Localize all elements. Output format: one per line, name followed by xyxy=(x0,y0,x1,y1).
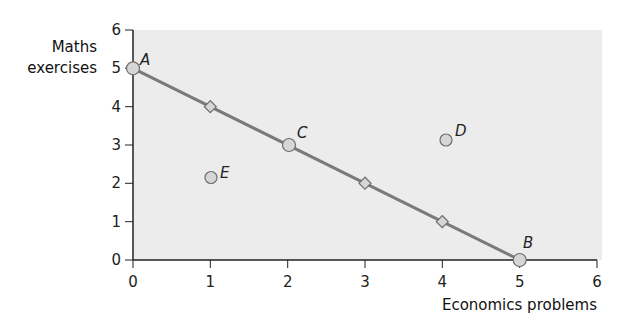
svg-text:5: 5 xyxy=(111,59,121,77)
svg-text:3: 3 xyxy=(360,273,370,291)
label-e: E xyxy=(220,164,230,182)
point-e xyxy=(205,172,217,184)
svg-text:6: 6 xyxy=(592,273,602,291)
ppf-chart: 0 1 2 3 4 5 6 0 1 2 3 4 5 6 Maths exerci… xyxy=(0,0,629,333)
point-a xyxy=(127,62,140,75)
label-b: B xyxy=(523,234,533,252)
y-tick-labels: 0 1 2 3 4 5 6 xyxy=(111,21,121,269)
svg-text:4: 4 xyxy=(111,98,121,116)
x-tick-labels: 0 1 2 3 4 5 6 xyxy=(128,273,602,291)
svg-text:1: 1 xyxy=(111,213,121,231)
svg-text:0: 0 xyxy=(128,273,138,291)
point-c xyxy=(283,139,296,152)
svg-text:6: 6 xyxy=(111,21,121,39)
point-d xyxy=(440,134,452,146)
svg-text:2: 2 xyxy=(111,174,121,192)
svg-text:3: 3 xyxy=(111,136,121,154)
svg-text:0: 0 xyxy=(111,251,121,269)
svg-text:5: 5 xyxy=(515,273,525,291)
svg-text:4: 4 xyxy=(438,273,448,291)
svg-text:2: 2 xyxy=(283,273,293,291)
y-axis-label-line2: exercises xyxy=(27,59,97,77)
plot-area xyxy=(133,30,602,260)
label-c: C xyxy=(297,124,308,142)
label-a: A xyxy=(139,51,150,69)
label-d: D xyxy=(455,122,467,140)
x-axis-label: Economics problems xyxy=(442,296,597,314)
point-b xyxy=(513,254,526,267)
svg-text:1: 1 xyxy=(206,273,216,291)
y-axis-label-line1: Maths xyxy=(52,38,98,56)
x-ticks xyxy=(133,260,597,268)
